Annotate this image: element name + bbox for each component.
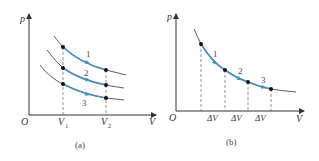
point-2-end xyxy=(104,83,108,87)
point-1-start xyxy=(61,45,65,49)
delta-v-label-2: ΔV xyxy=(230,113,243,123)
v2-subscript: 2 xyxy=(108,122,111,129)
y-axis-label: p xyxy=(19,13,25,24)
point-3-end xyxy=(104,96,108,100)
panel-b-caption: (b) xyxy=(226,137,237,147)
isotherm-curve xyxy=(194,29,296,92)
point-2-start xyxy=(61,66,65,70)
panel-a-caption: (a) xyxy=(75,140,85,150)
delta-v-label-3: ΔV xyxy=(254,113,267,123)
point-1-end xyxy=(104,68,108,72)
x-axis-label: V xyxy=(296,113,304,124)
point-3-start xyxy=(61,82,65,86)
delta-v-label-1: ΔV xyxy=(206,113,219,123)
process-label-2: 2 xyxy=(84,68,89,78)
y-axis-label: p xyxy=(166,11,172,22)
process-label-1: 1 xyxy=(86,49,91,59)
point-2 xyxy=(223,68,227,72)
origin-label: O xyxy=(169,112,176,123)
process-label-1: 1 xyxy=(213,49,218,59)
process-label-3: 3 xyxy=(82,98,87,108)
v1-subscript: 1 xyxy=(65,122,68,129)
point-1 xyxy=(199,42,203,46)
process-label-3: 3 xyxy=(261,75,266,85)
pv-diagram-figure: p O V V 1 V 2 1 2 3 (a) p O xyxy=(0,0,319,161)
origin-label: O xyxy=(21,116,28,127)
x-axis-label: V xyxy=(149,116,157,127)
process-segment-1 xyxy=(63,47,106,70)
process-label-2: 2 xyxy=(238,66,243,76)
point-4 xyxy=(269,87,273,91)
point-3 xyxy=(246,80,250,84)
process-segment-3 xyxy=(63,84,106,98)
panel-b: p O V ΔV ΔV ΔV 1 2 3 (b) xyxy=(166,11,304,147)
isotherm-curve-3 xyxy=(40,65,124,100)
panel-a: p O V V 1 V 2 1 2 3 (a) xyxy=(19,13,157,150)
